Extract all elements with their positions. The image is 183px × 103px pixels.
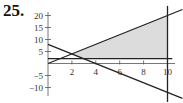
x-tick-label: 8	[141, 67, 146, 77]
shaded-region	[72, 16, 168, 59]
graph: 2015105−5−10246810	[0, 0, 183, 103]
x-tick-label: 6	[117, 67, 122, 77]
y-tick-label: 10	[34, 35, 44, 45]
x-tick-label: 4	[94, 67, 99, 77]
y-tick-label: −5	[33, 71, 43, 81]
y-tick-label: 5	[39, 47, 44, 57]
x-tick-label: 2	[70, 67, 75, 77]
x-tick-label: 10	[163, 67, 173, 77]
y-tick-label: 20	[34, 11, 44, 21]
y-tick-label: −10	[29, 83, 44, 93]
y-tick-label: 15	[34, 23, 44, 33]
shaded-feasible-region	[72, 16, 168, 59]
